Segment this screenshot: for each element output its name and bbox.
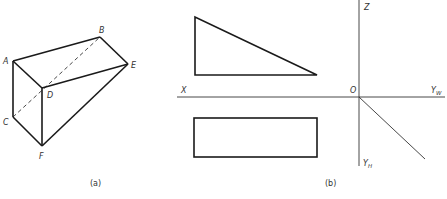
vertex-label-d: D: [47, 91, 53, 100]
vertex-label-f: F: [39, 152, 44, 161]
vertex-label-b: B: [99, 26, 105, 35]
axis-label-yw: YW: [431, 86, 442, 96]
caption-b: (b): [325, 179, 336, 188]
axis-label-z: Z: [363, 3, 370, 12]
diagonal-45-line: [359, 97, 425, 159]
edge-ad: [13, 61, 42, 88]
origin-label: O: [350, 86, 356, 95]
caption-a: (a): [90, 179, 101, 188]
edge-be: [100, 37, 128, 64]
figure-a-labels: A B C D E F (a): [2, 26, 137, 188]
projection-diagram: A B C D E F (a) X Z O YW YH (b): [0, 0, 447, 199]
vertex-label-a: A: [2, 57, 8, 66]
figure-b-views: [194, 17, 317, 157]
vertex-label-e: E: [131, 61, 137, 70]
figure-b-axes: [177, 0, 445, 166]
figure-a-solid: [13, 37, 128, 146]
vertex-label-c: C: [3, 118, 9, 127]
axis-label-yh: YH: [363, 159, 372, 169]
front-view-triangle: [195, 17, 317, 75]
axis-label-x: X: [180, 86, 187, 95]
top-view-rectangle: [194, 118, 317, 157]
figure-b-labels: X Z O YW YH (b): [180, 3, 442, 188]
yh-subscript: H: [368, 163, 372, 169]
yw-subscript: W: [436, 90, 442, 96]
edge-cf: [13, 117, 42, 146]
